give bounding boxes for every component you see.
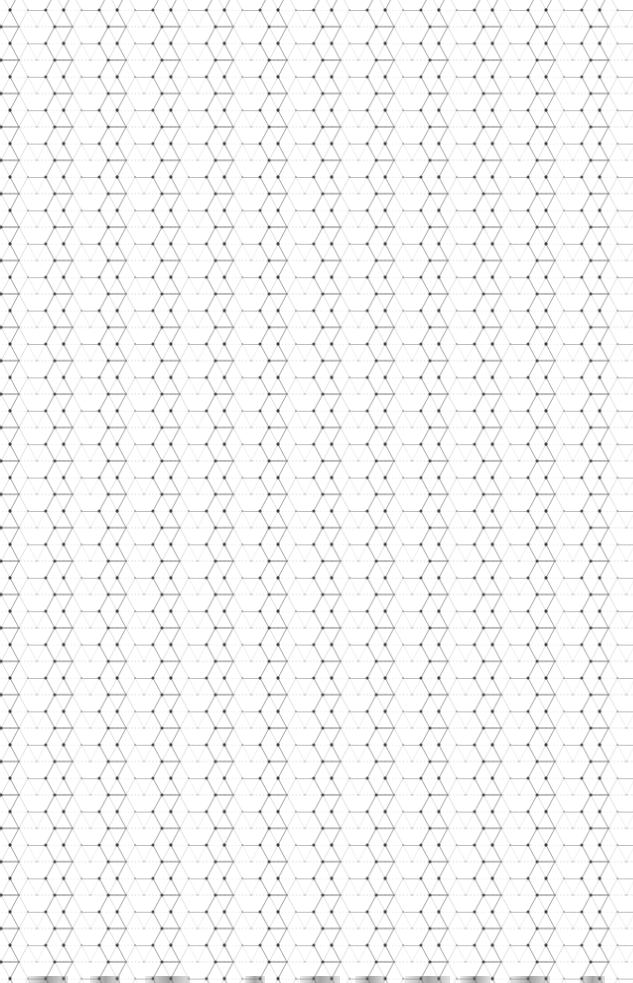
blurred-bar [355,976,385,983]
blurred-bar [300,976,340,983]
hex-grid-pattern [0,0,633,983]
pattern-fill [0,0,633,983]
blurred-bar [245,976,265,983]
blurred-bar [145,976,190,983]
blurred-bar [460,976,490,983]
bottom-strip [0,973,633,983]
blurred-bar [90,976,120,983]
blurred-bar [510,976,550,983]
blurred-bar [28,976,68,983]
blurred-bar [580,976,605,983]
blurred-bar [405,976,450,983]
